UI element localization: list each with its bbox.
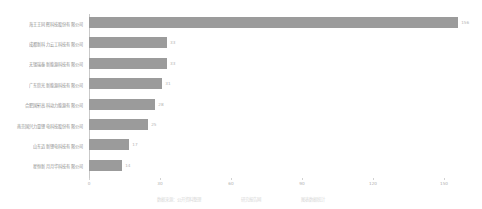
bar-value-label: 33	[170, 59, 175, 68]
category-label: 山东迈新锂电科技有限公司	[33, 142, 83, 151]
category-label: 广东欣光新能源科技有限公司	[29, 81, 83, 90]
bar[interactable]	[89, 99, 155, 110]
x-tick-mark	[160, 178, 161, 180]
bar[interactable]	[89, 58, 167, 69]
bar-value-label: 14	[125, 161, 130, 170]
x-tick-mark	[373, 178, 374, 180]
x-tick-label: 90	[299, 181, 304, 187]
category-label: 海王王同辉科技股份有限公司	[29, 19, 83, 28]
bar[interactable]	[89, 17, 458, 28]
x-tick-mark	[89, 178, 90, 180]
bar-chart: 海王王同辉科技股份有限公司成都新科力云工科技有限公司无锡瑞泰新能源科技有限公司广…	[0, 0, 482, 209]
x-tick-label: 60	[228, 181, 233, 187]
bar-value-label: 25	[151, 120, 156, 129]
bar[interactable]	[89, 119, 148, 130]
bar-value-label: 33	[170, 38, 175, 47]
bar[interactable]	[89, 37, 167, 48]
bar-value-label: 156	[461, 18, 469, 27]
category-label: 成都新科力云工科技有限公司	[29, 40, 83, 49]
x-tick-mark	[444, 178, 445, 180]
x-tick-label: 30	[157, 181, 162, 187]
chart-caption: 数据来源：公开资料整理 研究报告网 图表数据统计	[0, 196, 482, 203]
bar-value-label: 17	[132, 140, 137, 149]
plot-area: 15633333128251714	[89, 14, 444, 177]
x-tick-label: 120	[369, 181, 377, 187]
bar-value-label: 28	[158, 100, 163, 109]
category-label: 无锡瑞泰新能源科技有限公司	[29, 60, 83, 69]
category-label: 星恒新月月华科技有限公司	[33, 162, 83, 171]
bar[interactable]	[89, 78, 162, 89]
category-label: 合肥国轩高科动力能源有限公司	[25, 101, 83, 110]
x-tick-label: 0	[88, 181, 91, 187]
bar[interactable]	[89, 160, 122, 171]
x-tick-label: 150	[440, 181, 448, 187]
category-axis: 海王王同辉科技股份有限公司成都新科力云工科技有限公司无锡瑞泰新能源科技有限公司广…	[0, 14, 86, 177]
x-tick-mark	[231, 178, 232, 180]
x-tick-mark	[302, 178, 303, 180]
bar[interactable]	[89, 139, 129, 150]
bar-value-label: 31	[165, 79, 170, 88]
category-label: 南京国兴力量锂电科技股份有限公司	[17, 121, 83, 130]
x-axis: 0306090120150	[89, 178, 444, 192]
